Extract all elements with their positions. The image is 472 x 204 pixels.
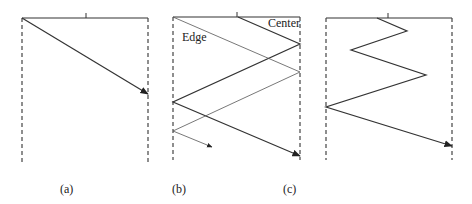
caption-b: (b) (172, 182, 186, 197)
panel-a (22, 13, 148, 162)
caption-c: (c) (283, 182, 296, 197)
edge-label: Edge (182, 30, 207, 45)
diagram-canvas: Center Edge (a) (b) (c) (0, 0, 472, 204)
caption-a: (a) (60, 182, 73, 197)
panel-c (326, 13, 452, 160)
center-label: Center (268, 16, 300, 31)
zigzag-ray (326, 18, 452, 146)
ray (22, 18, 148, 94)
ray-diagram (0, 0, 472, 204)
